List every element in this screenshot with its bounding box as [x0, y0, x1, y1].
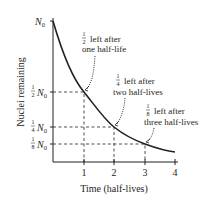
svg-text:N0: N0 [36, 139, 47, 151]
svg-text:left after: left after [154, 106, 185, 116]
svg-text:1: 1 [32, 119, 35, 125]
svg-text:N0: N0 [34, 16, 45, 28]
svg-text:1: 1 [82, 167, 87, 178]
svg-text:1: 1 [147, 103, 150, 109]
arrow-icon [117, 98, 125, 124]
x-axis-label: Time (half-lives) [80, 183, 148, 195]
arrow-icon [148, 128, 154, 141]
annotation-one-half-life: 1 2 left after one half-life [82, 31, 126, 91]
guide-lines [53, 92, 145, 162]
arrow-icon [87, 56, 95, 89]
svg-text:8: 8 [32, 144, 35, 150]
svg-text:1: 1 [32, 136, 35, 142]
svg-text:2: 2 [112, 167, 117, 178]
svg-text:left after: left after [90, 34, 121, 44]
svg-text:2: 2 [32, 92, 35, 98]
svg-text:4: 4 [173, 167, 178, 178]
x-tick-labels: 1 2 3 4 [82, 167, 178, 178]
svg-text:3: 3 [143, 167, 148, 178]
svg-text:three half-lives: three half-lives [144, 117, 199, 127]
svg-text:1: 1 [117, 73, 120, 79]
svg-text:4: 4 [32, 127, 35, 133]
y-axis-label: Nuclei remaining [15, 57, 26, 127]
svg-text:1: 1 [83, 31, 86, 37]
svg-text:one half-life: one half-life [82, 44, 126, 54]
y-tick-labels: N0 1 2 N0 1 4 N0 1 8 N0 [31, 16, 47, 151]
svg-text:1: 1 [32, 84, 35, 90]
svg-text:two half-lives: two half-lives [113, 87, 163, 97]
annotation-three-half-lives: 1 8 left after three half-lives [144, 103, 199, 143]
svg-text:left after: left after [124, 76, 155, 86]
svg-text:N0: N0 [36, 122, 47, 134]
decay-chart: N0 1 2 N0 1 4 N0 1 8 N0 1 2 3 4 Time (ha… [0, 0, 218, 203]
svg-text:N0: N0 [36, 87, 47, 99]
